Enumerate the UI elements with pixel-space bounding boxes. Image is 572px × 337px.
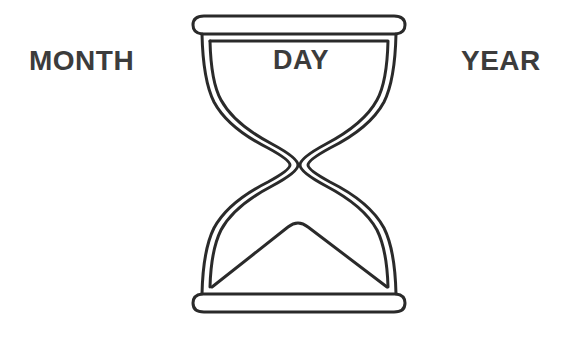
day-label: DAY xyxy=(273,47,329,74)
year-label: YEAR xyxy=(461,47,541,75)
hourglass-bottom-cap xyxy=(193,294,405,312)
hourglass-sand xyxy=(212,223,387,287)
hourglass-top-cap xyxy=(193,16,405,34)
month-label: MONTH xyxy=(29,47,134,75)
